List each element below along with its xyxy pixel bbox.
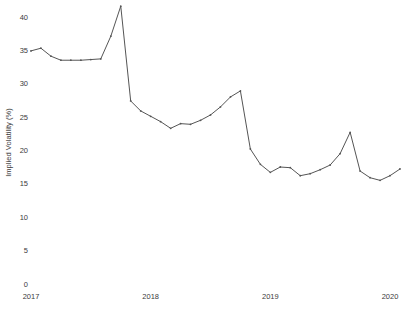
data-point-marker — [170, 127, 172, 129]
series-point-markers — [30, 5, 401, 181]
data-point-marker — [100, 58, 102, 60]
figure-caption — [0, 310, 403, 318]
data-point-marker — [160, 121, 162, 123]
data-point-marker — [279, 166, 281, 168]
data-point-marker — [260, 163, 262, 165]
data-point-marker — [249, 148, 251, 150]
data-point-marker — [200, 119, 202, 121]
data-point-marker — [309, 173, 311, 175]
data-point-marker — [299, 175, 301, 177]
data-point-marker — [269, 171, 271, 173]
data-point-marker — [150, 115, 152, 117]
data-point-marker — [210, 114, 212, 116]
data-point-marker — [30, 50, 32, 52]
data-point-marker — [339, 153, 341, 155]
data-point-marker — [319, 169, 321, 171]
data-point-marker — [60, 59, 62, 61]
chart-plot-area — [0, 0, 403, 318]
data-point-marker — [90, 59, 92, 61]
data-point-marker — [70, 59, 72, 61]
data-point-marker — [190, 123, 192, 125]
data-point-marker — [50, 55, 52, 57]
data-point-marker — [349, 131, 351, 133]
data-point-marker — [240, 90, 242, 92]
data-point-marker — [289, 167, 291, 169]
data-point-marker — [399, 168, 401, 170]
data-point-marker — [389, 175, 391, 177]
data-point-marker — [140, 110, 142, 112]
data-point-marker — [180, 123, 182, 125]
data-point-marker — [110, 35, 112, 37]
series-line-implied-volatility — [31, 6, 400, 180]
data-point-marker — [359, 170, 361, 172]
data-point-marker — [130, 100, 132, 102]
data-point-marker — [369, 177, 371, 179]
data-point-marker — [379, 179, 381, 181]
data-point-marker — [220, 106, 222, 108]
data-point-marker — [329, 164, 331, 166]
data-point-marker — [80, 59, 82, 61]
data-point-marker — [40, 47, 42, 49]
data-point-marker — [120, 5, 122, 7]
data-point-marker — [230, 96, 232, 98]
chart-figure: Implied Volatility (%) 0510152025303540 … — [0, 0, 403, 318]
